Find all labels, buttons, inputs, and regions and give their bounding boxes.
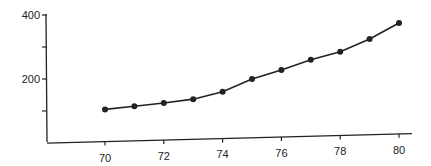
y-tick-label: 400	[22, 9, 40, 21]
x-tick-label: 76	[275, 147, 287, 159]
data-point-marker	[337, 49, 343, 55]
x-tick-label: 78	[334, 145, 346, 157]
data-point-marker	[278, 67, 284, 73]
data-point-marker	[161, 100, 167, 106]
data-point-marker	[367, 36, 373, 42]
data-point-marker	[308, 57, 314, 63]
data-point-marker	[131, 103, 137, 109]
data-markers	[102, 20, 402, 112]
x-tick-label: 74	[216, 148, 228, 160]
data-point-marker	[249, 76, 255, 82]
data-point-marker	[220, 89, 226, 95]
data-point-marker	[102, 106, 108, 112]
axes	[46, 14, 412, 143]
y-axis-ticks: 200400	[22, 9, 47, 111]
data-line	[105, 23, 399, 109]
data-point-marker	[190, 96, 196, 102]
y-axis-line	[46, 14, 47, 142]
line-chart: 200400 707274767880	[0, 0, 431, 166]
y-tick-label: 200	[22, 73, 40, 85]
data-point-marker	[396, 20, 402, 26]
x-axis-line	[47, 134, 412, 143]
x-tick-label: 80	[393, 144, 405, 156]
x-tick-label: 70	[99, 152, 111, 164]
x-tick-label: 72	[158, 150, 170, 162]
